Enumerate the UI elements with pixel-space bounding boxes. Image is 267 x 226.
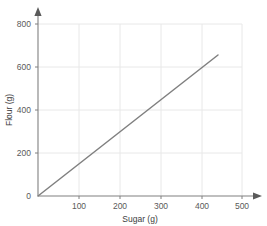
x-tick-label-200: 200 — [113, 201, 127, 211]
y-tick-label-800: 800 — [17, 19, 31, 29]
y-tick-labels: 800 600 400 200 0 — [17, 19, 31, 201]
chart-canvas: 800 600 400 200 0 100 200 300 400 500 Su… — [0, 0, 267, 226]
y-axis-title: Flour (g) — [4, 94, 14, 126]
y-tick-label-400: 400 — [17, 105, 31, 115]
x-tick-label-400: 400 — [195, 201, 209, 211]
line-chart: 800 600 400 200 0 100 200 300 400 500 Su… — [0, 0, 267, 226]
x-axis-arrow-icon — [253, 192, 262, 199]
y-tick-label-200: 200 — [17, 148, 31, 158]
x-tick-label-100: 100 — [72, 201, 86, 211]
x-tick-labels: 100 200 300 400 500 — [72, 201, 249, 211]
data-series-flour-per-sugar — [38, 55, 218, 196]
x-tick-label-300: 300 — [154, 201, 168, 211]
x-axis-title: Sugar (g) — [122, 214, 158, 224]
y-axis-arrow-icon — [34, 7, 41, 16]
y-axis — [34, 7, 41, 196]
horizontal-gridlines — [38, 24, 242, 153]
x-axis — [38, 192, 262, 199]
data-line — [38, 55, 218, 196]
y-tick-label-600: 600 — [17, 62, 31, 72]
y-tick-label-0: 0 — [26, 191, 31, 201]
x-tick-label-500: 500 — [235, 201, 249, 211]
